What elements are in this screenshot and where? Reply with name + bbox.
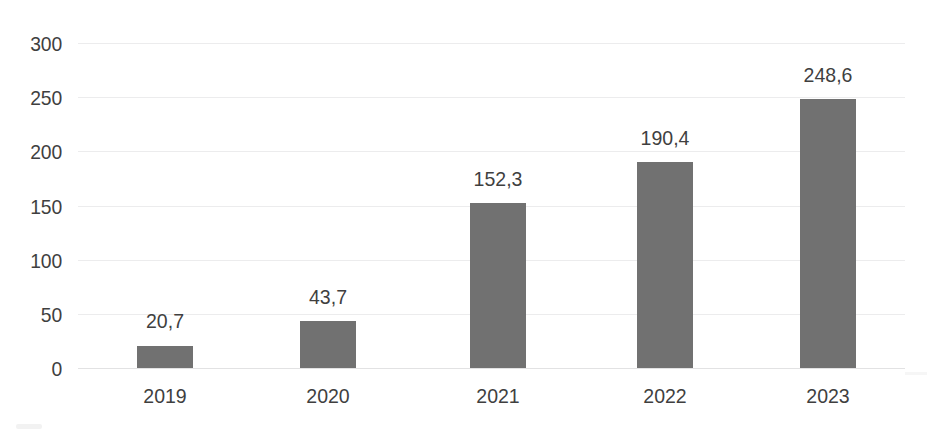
x-axis-label-2020: 2020: [291, 385, 365, 406]
scan-artifact-right: [905, 372, 927, 375]
x-axis-label-2019: 2019: [128, 385, 202, 406]
x-axis-label-2022: 2022: [628, 385, 702, 406]
bar-chart: 300 250 200 150 100 50 0 20,7 43,7 152,3…: [0, 0, 932, 432]
x-axis-label-2021: 2021: [461, 385, 535, 406]
x-axis-label-2023: 2023: [791, 385, 865, 406]
scan-artifact-bottom-left: [16, 424, 42, 429]
x-axis-labels: 2019 2020 2021 2022 2023: [0, 0, 932, 432]
